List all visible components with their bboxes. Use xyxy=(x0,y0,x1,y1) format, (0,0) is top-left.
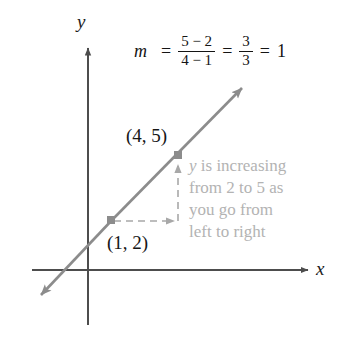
slope-formula: m = 5 − 2 4 − 1 = 3 3 = 1 xyxy=(134,34,286,69)
annotation-line-2: from 2 to 5 as xyxy=(189,177,321,199)
fraction-2-numerator: 3 xyxy=(239,34,253,50)
fraction-1-numerator: 5 − 2 xyxy=(178,34,215,50)
reduced-fraction: 3 3 xyxy=(239,34,253,69)
point-label-1-2: (1, 2) xyxy=(107,233,148,252)
annotation-variable: y xyxy=(189,156,197,175)
x-axis-label: x xyxy=(316,259,324,278)
annotation-line-3: you go from xyxy=(189,199,321,221)
equals-sign-3: = xyxy=(260,42,270,60)
slope-result: 1 xyxy=(277,42,286,60)
point-marker-lower xyxy=(107,216,115,224)
equals-sign-2: = xyxy=(222,42,232,60)
increasing-annotation: y is increasing from 2 to 5 as you go fr… xyxy=(189,155,321,243)
slope-symbol: m xyxy=(134,42,147,60)
point-marker-upper xyxy=(174,151,182,159)
point-label-4-5: (4, 5) xyxy=(126,126,167,145)
equals-sign-1: = xyxy=(161,42,171,60)
slope-figure: y x (4, 5) (1, 2) m = 5 − 2 4 − 1 = 3 3 … xyxy=(0,0,348,337)
plotted-line-extension xyxy=(41,219,113,295)
annotation-line-4: left to right xyxy=(189,221,321,243)
difference-quotient-fraction: 5 − 2 4 − 1 xyxy=(178,34,215,69)
fraction-1-denominator: 4 − 1 xyxy=(178,53,215,69)
annotation-line-1: y is increasing xyxy=(189,155,321,177)
annotation-line-1-rest: is increasing xyxy=(197,156,287,175)
y-axis-label: y xyxy=(77,12,85,31)
fraction-2-denominator: 3 xyxy=(239,53,253,69)
